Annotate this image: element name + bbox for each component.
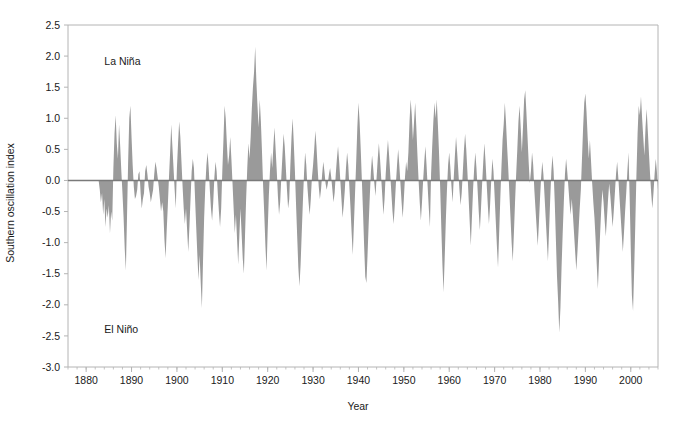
la-nina-label: La Niña xyxy=(104,55,140,67)
x-tick-label: 1880 xyxy=(74,374,98,386)
y-tick-label: -1.0 xyxy=(42,236,60,248)
y-tick-label: 2.0 xyxy=(45,50,60,62)
x-tick-label: 1960 xyxy=(438,374,462,386)
el-nino-label: El Niño xyxy=(104,323,138,335)
x-tick-label: 1990 xyxy=(574,374,598,386)
x-tick-label: 2000 xyxy=(619,374,643,386)
chart-canvas: 2.52.01.51.00.50.0-0.5-1.0-1.5-2.0-2.5-3… xyxy=(0,0,673,427)
x-tick-label: 1950 xyxy=(392,374,416,386)
y-tick-label: 0.0 xyxy=(45,174,60,186)
y-tick-label: -1.5 xyxy=(42,267,60,279)
y-tick-label: 0.5 xyxy=(45,143,60,155)
x-tick-label: 1970 xyxy=(483,374,507,386)
x-tick-label: 1930 xyxy=(301,374,325,386)
y-tick-label: -2.0 xyxy=(42,298,60,310)
x-tick-label: 1940 xyxy=(347,374,371,386)
x-tick-label: 1890 xyxy=(120,374,144,386)
y-tick-label: 2.5 xyxy=(45,19,60,31)
y-tick-label: 1.5 xyxy=(45,81,60,93)
y-tick-label: -0.5 xyxy=(42,205,60,217)
x-tick-label: 1910 xyxy=(211,374,235,386)
figure-background xyxy=(0,0,673,427)
y-axis-title: Southern oscillation index xyxy=(4,142,16,262)
x-tick-label: 1900 xyxy=(165,374,189,386)
x-tick-label: 1920 xyxy=(256,374,280,386)
x-tick-label: 1980 xyxy=(528,374,552,386)
soi-chart-figure: 2.52.01.51.00.50.0-0.5-1.0-1.5-2.0-2.5-3… xyxy=(0,0,673,427)
y-tick-label: -2.5 xyxy=(42,330,60,342)
x-axis-title: Year xyxy=(347,400,369,412)
y-tick-label: -3.0 xyxy=(42,361,60,373)
y-tick-label: 1.0 xyxy=(45,112,60,124)
